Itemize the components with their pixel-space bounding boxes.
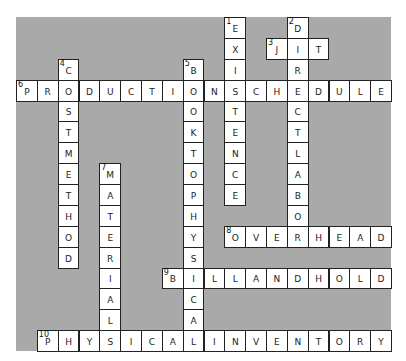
grid-cell[interactable]: T	[287, 121, 309, 143]
grid-cell[interactable]: L	[349, 80, 371, 102]
grid-cell[interactable]: C	[141, 330, 163, 352]
grid-cell[interactable]: 5B	[183, 59, 205, 81]
grid-cell[interactable]: E	[266, 330, 288, 352]
grid-cell[interactable]: T	[183, 142, 205, 164]
grid-cell[interactable]: S	[58, 101, 80, 123]
grid-cell[interactable]: D	[79, 80, 101, 102]
grid-cell[interactable]: T	[58, 184, 80, 206]
grid-cell[interactable]: H	[58, 330, 80, 352]
grid-cell[interactable]: E	[329, 226, 351, 248]
grid-cell[interactable]: A	[183, 309, 205, 331]
grid-cell[interactable]: R	[37, 80, 59, 102]
grid-cell[interactable]: X	[224, 38, 246, 60]
grid-cell[interactable]: N	[287, 330, 309, 352]
grid-cell[interactable]: U	[329, 80, 351, 102]
grid-cell[interactable]: R	[349, 330, 371, 352]
grid-cell[interactable]: T	[58, 121, 80, 143]
grid-cell[interactable]: O	[329, 268, 351, 290]
grid-cell[interactable]: H	[58, 205, 80, 227]
grid-cell[interactable]: V	[245, 226, 267, 248]
grid-cell[interactable]: E	[224, 121, 246, 143]
grid-cell[interactable]: H	[308, 268, 330, 290]
grid-cell[interactable]: E	[266, 226, 288, 248]
grid-cell[interactable]: 6P	[16, 80, 38, 102]
grid-cell[interactable]: L	[183, 330, 205, 352]
grid-cell[interactable]: R	[287, 226, 309, 248]
grid-cell[interactable]: I	[120, 330, 142, 352]
grid-cell[interactable]: Y	[183, 226, 205, 248]
grid-cell[interactable]: O	[183, 163, 205, 185]
grid-cell[interactable]: O	[58, 226, 80, 248]
grid-cell[interactable]: T	[99, 205, 121, 227]
grid-cell[interactable]: M	[58, 142, 80, 164]
grid-cell[interactable]: 3J	[266, 38, 288, 60]
grid-cell[interactable]: E	[287, 80, 309, 102]
grid-cell[interactable]: 10P	[37, 330, 59, 352]
grid-cell[interactable]: N	[266, 268, 288, 290]
grid-cell[interactable]: H	[308, 226, 330, 248]
grid-cell[interactable]: L	[204, 268, 226, 290]
grid-cell[interactable]: E	[99, 226, 121, 248]
grid-cell[interactable]: I	[99, 268, 121, 290]
grid-cell[interactable]: R	[287, 59, 309, 81]
grid-cell[interactable]: A	[99, 184, 121, 206]
grid-cell[interactable]: K	[183, 121, 205, 143]
grid-cell[interactable]: C	[287, 101, 309, 123]
grid-cell[interactable]: T	[308, 330, 330, 352]
grid-cell[interactable]: I	[183, 268, 205, 290]
grid-cell[interactable]: 2D	[287, 17, 309, 39]
grid-cell[interactable]: N	[224, 142, 246, 164]
grid-cell[interactable]: A	[245, 268, 267, 290]
grid-cell[interactable]: E	[224, 184, 246, 206]
grid-cell[interactable]: A	[162, 330, 184, 352]
grid-cell[interactable]: A	[287, 163, 309, 185]
grid-cell[interactable]: S	[99, 330, 121, 352]
grid-cell[interactable]: N	[224, 330, 246, 352]
grid-cell[interactable]: 4C	[58, 59, 80, 81]
grid-cell[interactable]: L	[349, 268, 371, 290]
grid-cell[interactable]: 7M	[99, 163, 121, 185]
grid-cell[interactable]: B	[287, 184, 309, 206]
grid-cell[interactable]: O	[329, 330, 351, 352]
grid-cell[interactable]: Y	[79, 330, 101, 352]
grid-cell[interactable]: Y	[370, 330, 392, 352]
grid-cell[interactable]: O	[287, 205, 309, 227]
grid-cell[interactable]: 1E	[224, 17, 246, 39]
grid-cell[interactable]: I	[162, 80, 184, 102]
grid-cell[interactable]: I	[204, 330, 226, 352]
grid-cell[interactable]: I	[287, 38, 309, 60]
grid-cell[interactable]: O	[183, 101, 205, 123]
grid-cell[interactable]: N	[204, 80, 226, 102]
grid-cell[interactable]: L	[99, 309, 121, 331]
grid-cell[interactable]: D	[58, 247, 80, 269]
grid-cell[interactable]: P	[183, 184, 205, 206]
grid-cell[interactable]: O	[58, 80, 80, 102]
grid-cell[interactable]: C	[120, 80, 142, 102]
grid-cell[interactable]: L	[224, 268, 246, 290]
grid-cell[interactable]: D	[370, 268, 392, 290]
grid-cell[interactable]: A	[99, 288, 121, 310]
grid-cell[interactable]: S	[224, 80, 246, 102]
grid-cell[interactable]: H	[266, 80, 288, 102]
grid-cell[interactable]: E	[58, 163, 80, 185]
grid-cell[interactable]: T	[224, 101, 246, 123]
grid-cell[interactable]: D	[287, 268, 309, 290]
grid-cell[interactable]: 9B	[162, 268, 184, 290]
grid-cell[interactable]: D	[308, 80, 330, 102]
grid-cell[interactable]: S	[183, 247, 205, 269]
grid-cell[interactable]: A	[349, 226, 371, 248]
grid-cell[interactable]: C	[183, 288, 205, 310]
grid-cell[interactable]: I	[224, 59, 246, 81]
grid-cell[interactable]: U	[99, 80, 121, 102]
grid-cell[interactable]: H	[183, 205, 205, 227]
grid-cell[interactable]: C	[224, 163, 246, 185]
grid-cell[interactable]: E	[370, 80, 392, 102]
grid-cell[interactable]: D	[370, 226, 392, 248]
grid-cell[interactable]: T	[308, 38, 330, 60]
grid-cell[interactable]: C	[245, 80, 267, 102]
grid-cell[interactable]: L	[287, 142, 309, 164]
grid-cell[interactable]: V	[245, 330, 267, 352]
grid-cell[interactable]: T	[141, 80, 163, 102]
grid-cell[interactable]: O	[183, 80, 205, 102]
grid-cell[interactable]: R	[99, 247, 121, 269]
